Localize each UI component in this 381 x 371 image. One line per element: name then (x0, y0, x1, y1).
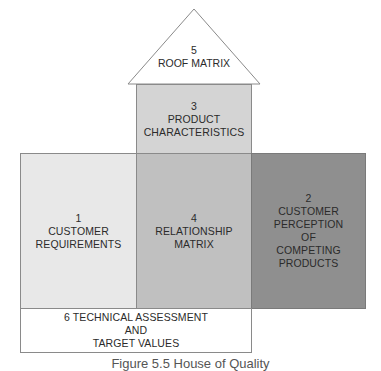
figure-caption: Figure 5.5 House of Quality (0, 356, 381, 371)
relationship-matrix-box: 4 RELATIONSHIP MATRIX (136, 153, 252, 309)
relationship-line1: RELATIONSHIP (155, 225, 232, 238)
perception-line3: OF (301, 231, 316, 244)
customer-req-line1: CUSTOMER (48, 225, 109, 238)
technical-line3: TARGET VALUES (93, 337, 180, 350)
technical-line1: 6 TECHNICAL ASSESSMENT (64, 311, 208, 324)
perception-line2: PERCEPTION (274, 218, 343, 231)
roof-number: 5 (127, 44, 261, 57)
relationship-number: 4 (191, 212, 197, 225)
product-line2: CHARACTERISTICS (144, 126, 245, 139)
perception-line1: CUSTOMER (278, 205, 339, 218)
relationship-line2: MATRIX (174, 238, 214, 251)
roof-title: ROOF MATRIX (127, 57, 261, 70)
perception-line5: PRODUCTS (279, 257, 339, 270)
customer-req-line2: REQUIREMENTS (36, 238, 122, 251)
product-line1: PRODUCT (168, 113, 221, 126)
roof-matrix-label: 5 ROOF MATRIX (127, 44, 261, 70)
product-characteristics-box: 3 PRODUCT CHARACTERISTICS (136, 84, 252, 154)
product-number: 3 (191, 100, 197, 113)
technical-assessment-box: 6 TECHNICAL ASSESSMENT AND TARGET VALUES (20, 308, 252, 353)
perception-number: 2 (306, 192, 312, 205)
customer-perception-box: 2 CUSTOMER PERCEPTION OF COMPETING PRODU… (251, 153, 366, 309)
customer-requirements-box: 1 CUSTOMER REQUIREMENTS (20, 153, 137, 309)
perception-line4: COMPETING (276, 244, 341, 257)
technical-line2: AND (125, 324, 147, 337)
customer-req-number: 1 (76, 212, 82, 225)
